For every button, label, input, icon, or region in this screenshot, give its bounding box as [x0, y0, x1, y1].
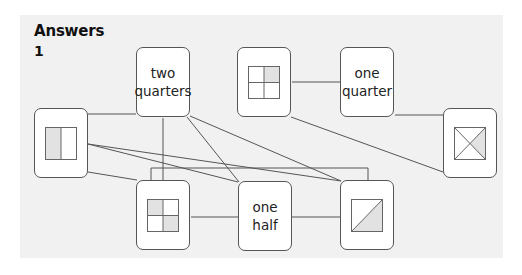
card-label: two quarters — [134, 64, 191, 100]
card-diagonal-square — [340, 180, 394, 250]
two-quarters-shaded-grid-icon — [147, 199, 179, 232]
card-label: one half — [252, 198, 277, 234]
card-quarter-grid-bottom — [136, 180, 190, 250]
half-shaded-square-icon — [45, 127, 77, 160]
line-half-to-grid-bottom — [88, 172, 137, 180]
card-half-vertical — [34, 108, 88, 178]
diagonal-shaded-square-icon — [351, 199, 383, 232]
card-two-quarters: two quarters — [136, 47, 190, 117]
card-label: one quarter — [342, 64, 392, 100]
line-twoquarters-to-onehalf — [187, 117, 239, 182]
card-cross-square — [443, 108, 497, 178]
line-gridtop-to-cross — [291, 117, 443, 172]
cross-shaded-square-icon — [454, 127, 486, 160]
card-one-quarter: one quarter — [340, 47, 394, 117]
card-quarter-grid-top — [237, 47, 291, 117]
quarter-shaded-grid-icon — [248, 66, 280, 99]
card-one-half: one half — [238, 181, 292, 251]
line-half-to-diagonal — [88, 144, 341, 181]
